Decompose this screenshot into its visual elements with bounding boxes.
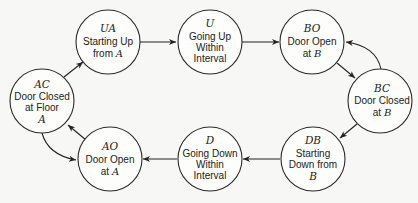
state-label-line: Within bbox=[196, 159, 224, 170]
edge-ao-to-ac bbox=[68, 125, 86, 140]
state-label-line: Interval bbox=[194, 170, 227, 181]
state-label-line: A bbox=[37, 113, 46, 125]
state-label-line: at B bbox=[303, 48, 321, 59]
edge-bc-to-bo bbox=[346, 42, 381, 69]
state-u-going-up: U Going Up Within Interval bbox=[178, 10, 242, 74]
edge-bc-to-db bbox=[340, 124, 357, 138]
state-db-starting-down-from-b: DB Starting Down from B bbox=[281, 127, 345, 191]
state-bo-door-open-at-b: BO Door Open at B bbox=[280, 10, 344, 74]
state-code: DB bbox=[304, 134, 321, 146]
state-label-line: at A bbox=[101, 166, 119, 177]
state-label-line: Going Up bbox=[189, 31, 232, 42]
state-label-line: Starting bbox=[296, 148, 330, 159]
state-label-line: Down from bbox=[289, 159, 337, 170]
state-d-going-down: D Going Down Within Interval bbox=[178, 127, 242, 191]
state-label-line: Door Closed bbox=[14, 91, 70, 102]
state-label-line: from A bbox=[93, 48, 123, 59]
state-label-line: Door Closed bbox=[354, 95, 410, 106]
elevator-state-diagram: UA Starting Up from A U Going Up Within … bbox=[0, 0, 418, 203]
edge-ac-to-ao bbox=[42, 133, 76, 160]
state-label-line: Within bbox=[196, 42, 224, 53]
state-ao-door-open-at-a: AO Door Open at A bbox=[78, 127, 142, 191]
state-label-line: Starting Up bbox=[83, 36, 133, 47]
edge-ac-to-ua bbox=[64, 62, 83, 77]
state-label-line: Interval bbox=[194, 53, 227, 64]
state-code: D bbox=[205, 134, 215, 146]
state-bc-door-closed-at-b: BC Door Closed at B bbox=[348, 69, 412, 133]
state-code: BC bbox=[373, 82, 390, 94]
state-ua-starting-up-from-a: UA Starting Up from A bbox=[76, 10, 140, 74]
edge-bo-to-bc bbox=[337, 63, 355, 78]
state-code: UA bbox=[100, 22, 117, 34]
state-code: AC bbox=[33, 78, 50, 90]
state-label-line: B bbox=[308, 170, 317, 182]
state-label-line: at Floor bbox=[25, 102, 60, 113]
state-code: AO bbox=[101, 140, 119, 152]
state-label-line: Door Open bbox=[288, 36, 337, 47]
state-label-line: Door Open bbox=[86, 154, 135, 165]
state-label-line: at B bbox=[373, 107, 391, 118]
state-ac-door-closed-at-floor-a: AC Door Closed at Floor A bbox=[10, 69, 74, 133]
state-code: U bbox=[206, 17, 216, 29]
state-code: BO bbox=[303, 22, 321, 34]
state-label-line: Going Down bbox=[182, 148, 237, 159]
